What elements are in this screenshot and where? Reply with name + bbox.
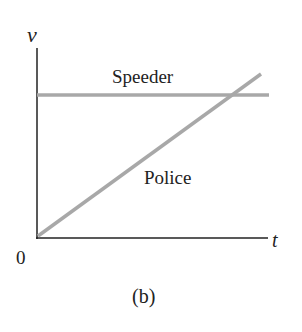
speeder-label: Speeder [112,66,174,87]
figure-caption: (b) [132,285,155,308]
x-axis-label: t [272,229,278,251]
velocity-time-graph: v t 0 Speeder Police (b) [0,0,302,332]
police-line [38,74,261,236]
police-label: Police [144,167,192,188]
origin-label: 0 [16,247,26,268]
y-axis-label: v [27,22,37,47]
